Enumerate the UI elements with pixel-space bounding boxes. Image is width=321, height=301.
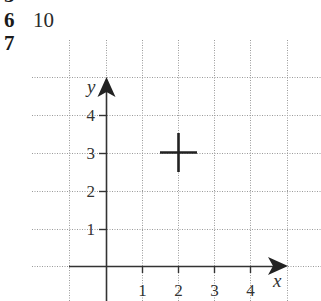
- y-axis-ticks: [99, 116, 106, 230]
- y-tick-label-1: 1: [87, 220, 96, 239]
- y-tick-label-4: 4: [87, 106, 96, 125]
- x-tick-label-1: 1: [138, 281, 147, 300]
- cross-marker-icon: [160, 133, 197, 172]
- y-tick-label-3: 3: [87, 144, 96, 163]
- coordinate-grid-graph: 1 2 3 4 4 3 2 1 y x: [0, 0, 321, 301]
- x-tick-label-2: 2: [174, 281, 183, 300]
- x-tick-label-3: 3: [210, 281, 219, 300]
- grid-horizontal-lines: [32, 78, 321, 267]
- y-axis-label: y: [85, 76, 96, 97]
- y-axis: [98, 77, 116, 301]
- x-axis-label: x: [272, 270, 282, 291]
- x-tick-label-4: 4: [246, 281, 255, 300]
- y-tick-label-2: 2: [87, 182, 96, 201]
